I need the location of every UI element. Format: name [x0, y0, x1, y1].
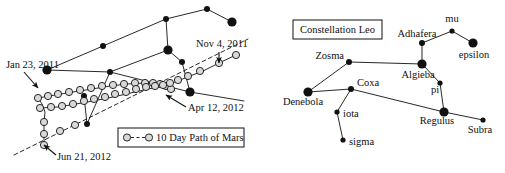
leo-star-label-zosma: Zosma: [315, 50, 344, 61]
mars-position-marker: [98, 82, 105, 89]
leo-star-mu: [449, 28, 454, 33]
leo-star-coxa: [348, 86, 354, 92]
mars-position-marker: [58, 102, 65, 109]
constellation-title-label: Constellation Leo: [300, 24, 375, 35]
constellation-star: [227, 17, 236, 26]
mars-position-marker: [132, 85, 139, 92]
leo-star-label-coxa: Coxa: [357, 77, 380, 88]
mars-position-marker: [166, 79, 173, 86]
date-label-jun-21-2012: Jun 21, 2012: [57, 151, 111, 162]
mars-position-marker: [80, 97, 87, 104]
date-label-jan-23-2011: Jan 23, 2011: [6, 59, 59, 70]
constellation-star: [204, 6, 210, 12]
leo-star-label-pi: pi: [431, 84, 439, 95]
leo-segment-denebola-coxa: [308, 89, 351, 92]
date-label-apr-12-2012: Apr 12, 2012: [188, 102, 244, 113]
leader-arrow-jun-21-2012: [44, 145, 56, 155]
mars-position-marker: [54, 90, 61, 97]
leo-star-adhafera: [419, 40, 425, 46]
mars-position-marker: [65, 88, 72, 95]
leo-segment-zosma-algieba: [349, 62, 422, 64]
mars-position-marker: [174, 76, 181, 83]
mars-position-marker: [159, 81, 166, 88]
date-label-nov-4-2011: Nov 4, 2011: [196, 38, 248, 49]
leo-star-label-mu: mu: [445, 13, 459, 24]
mars-position-marker: [40, 130, 47, 137]
mars-position-marker: [36, 104, 43, 111]
legend-marker-end: [145, 134, 152, 141]
mars-position-marker: [101, 93, 108, 100]
constellation-segment: [110, 50, 168, 72]
astronomy-figure: Nov 4, 2011Jan 23, 2011Apr 12, 2012Jun 2…: [0, 0, 505, 173]
leo-star-zosma: [346, 59, 352, 65]
figure-canvas: Nov 4, 2011Jan 23, 2011Apr 12, 2012Jun 2…: [0, 0, 505, 173]
mars-position-marker: [87, 84, 94, 91]
legend-marker-start: [123, 134, 130, 141]
mars-position-marker: [122, 88, 129, 95]
mars-path-panel: Nov 4, 2011Jan 23, 2011Apr 12, 2012Jun 2…: [6, 6, 248, 162]
leo-segment-zosma-denebola: [308, 62, 349, 92]
leo-star-epsilon: [468, 38, 477, 47]
mars-position-marker: [56, 127, 63, 134]
mars-position-marker: [76, 86, 83, 93]
leo-star-subra: [480, 117, 485, 122]
constellation-star: [84, 121, 90, 127]
constellation-star: [163, 45, 172, 54]
mars-position-marker: [184, 72, 191, 79]
constellation-segment: [166, 19, 168, 50]
mars-position-marker: [109, 81, 116, 88]
leo-star-label-sigma: sigma: [349, 136, 374, 147]
constellation-star: [100, 43, 106, 49]
mars-position-marker: [111, 90, 118, 97]
constellation-segment: [190, 92, 244, 101]
mars-position-marker: [40, 118, 47, 125]
constellation-leo-panel: ZosmaDenebolaCoxaiotasigmaAlgiebaAdhafer…: [283, 13, 493, 147]
leo-star-label-subra: Subra: [468, 124, 493, 135]
leo-star-algieba: [417, 59, 426, 68]
constellation-segment: [103, 19, 166, 46]
leader-arrow-jan-23-2011: [24, 72, 38, 88]
leo-star-label-iota: iota: [343, 108, 359, 119]
mars-position-marker: [47, 103, 54, 110]
constellation-star: [107, 69, 113, 75]
constellation-segment: [166, 9, 207, 19]
leo-star-label-algieba: Algieba: [401, 69, 435, 80]
constellation-star: [163, 16, 169, 22]
mars-position-marker: [44, 92, 51, 99]
mars-position-marker: [142, 83, 149, 90]
constellation-star: [179, 59, 185, 65]
mars-position-marker: [120, 80, 127, 87]
leo-star-sigma: [340, 137, 345, 142]
mars-position-marker: [232, 51, 239, 58]
leo-star-iota: [334, 109, 339, 114]
leo-star-label-denebola: Denebola: [283, 96, 324, 107]
mars-position-marker: [151, 82, 158, 89]
constellation-segment: [47, 70, 110, 72]
mars-position-marker: [71, 121, 78, 128]
mars-position-marker: [34, 94, 41, 101]
leader-arrow-apr-12-2012: [166, 95, 186, 107]
constellation-star: [185, 87, 194, 96]
mars-position-marker: [196, 67, 203, 74]
leo-star-label-regulus: Regulus: [420, 115, 454, 126]
mars-position-marker: [90, 95, 97, 102]
leo-star-label-adhafera: Adhafera: [397, 28, 436, 39]
legend-label: 10 Day Path of Mars: [156, 132, 244, 143]
leo-star-label-epsilon: epsilon: [459, 49, 490, 60]
mars-position-marker: [69, 100, 76, 107]
